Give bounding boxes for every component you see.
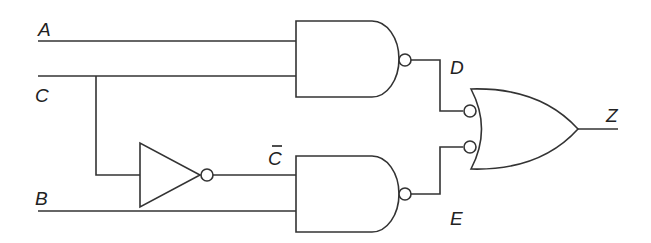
- output-label-z: Z: [605, 105, 619, 126]
- circuit-svg: A C B C D E Z: [0, 0, 651, 243]
- or-gate-input-bubble-e: [464, 141, 476, 153]
- not-gate: [140, 143, 200, 207]
- nand-gate-1: [296, 21, 399, 97]
- wire-c-branch: [96, 76, 140, 175]
- not-gate-bubble: [201, 169, 213, 181]
- signal-label-e: E: [450, 208, 463, 229]
- signal-label-d: D: [450, 57, 464, 78]
- input-label-a: A: [37, 19, 51, 40]
- or-gate: [471, 89, 578, 169]
- signal-label-c-not: C: [268, 148, 282, 169]
- nand-gate-2-bubble: [399, 188, 411, 200]
- nand-gate-1-bubble: [399, 54, 411, 66]
- input-label-c: C: [35, 85, 49, 106]
- wire-e: [411, 147, 463, 194]
- logic-circuit-diagram: A C B C D E Z: [0, 0, 651, 243]
- input-label-b: B: [35, 188, 48, 209]
- nand-gate-2: [296, 156, 399, 232]
- or-gate-input-bubble-d: [464, 105, 476, 117]
